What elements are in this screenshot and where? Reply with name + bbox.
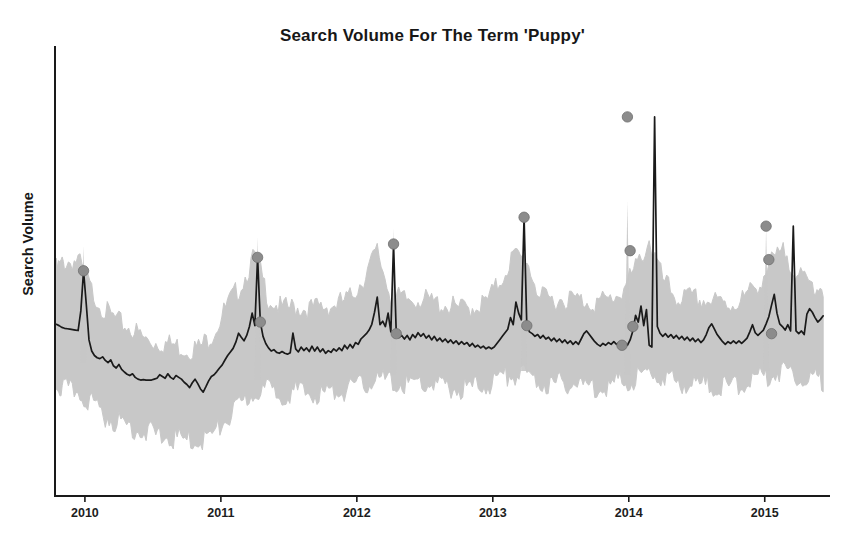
peak-marker[interactable]: [628, 321, 638, 331]
chart-figure: Search Volume For The Term 'Puppy' Searc…: [0, 0, 865, 545]
peak-marker[interactable]: [766, 328, 776, 338]
x-tick-label-2013: 2013: [463, 506, 523, 520]
peak-marker[interactable]: [78, 266, 88, 276]
plot-area: [0, 0, 865, 545]
peak-marker[interactable]: [391, 328, 401, 338]
peak-marker[interactable]: [625, 246, 635, 256]
x-tick-label-2015: 2015: [735, 506, 795, 520]
chart-title: Search Volume For The Term 'Puppy': [0, 26, 865, 46]
peak-marker[interactable]: [252, 252, 262, 262]
peak-marker[interactable]: [255, 317, 265, 327]
peak-marker[interactable]: [519, 212, 529, 222]
peak-marker[interactable]: [622, 112, 632, 122]
x-tick-label-2011: 2011: [191, 506, 251, 520]
peak-marker[interactable]: [617, 340, 627, 350]
confidence-band: [56, 241, 823, 450]
x-tick-label-2012: 2012: [327, 506, 387, 520]
x-tick-label-2010: 2010: [55, 506, 115, 520]
peak-marker[interactable]: [388, 239, 398, 249]
peak-marker[interactable]: [764, 254, 774, 264]
y-axis-label: Search Volume: [20, 164, 36, 324]
x-tick-label-2014: 2014: [599, 506, 659, 520]
peak-marker[interactable]: [522, 320, 532, 330]
peak-marker[interactable]: [761, 221, 771, 231]
